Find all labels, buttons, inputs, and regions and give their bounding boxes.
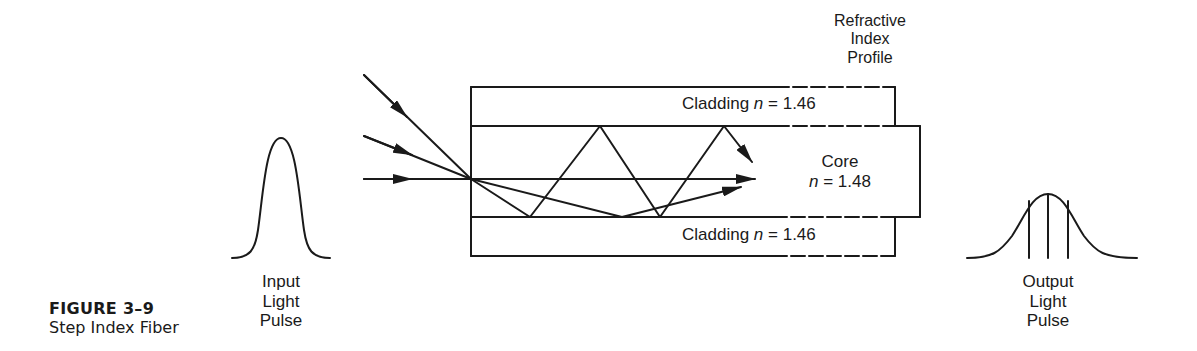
region-name: Cladding — [682, 225, 749, 244]
core-label: Core n = 1.48 — [785, 152, 895, 191]
input-pulse-label: Input Light Pulse — [241, 272, 321, 331]
cladding-top-label: Cladding n = 1.46 — [682, 94, 816, 114]
label-line: Light — [1003, 292, 1093, 312]
refractive-index-profile-label: Refractive Index Profile — [805, 12, 935, 67]
label-line: Output — [1003, 272, 1093, 292]
input-pulse-curve — [232, 138, 330, 258]
label-line: Pulse — [1003, 311, 1093, 331]
cladding-bottom-label: Cladding n = 1.46 — [682, 225, 816, 245]
figure-title: Step Index Fiber — [49, 318, 179, 337]
label-line: Profile — [805, 49, 935, 67]
output-pulse-curve — [967, 194, 1137, 258]
output-pulse-label: Output Light Pulse — [1003, 272, 1093, 331]
index-value: = 1.48 — [819, 172, 871, 191]
core-ray-steep — [471, 126, 752, 217]
n-symbol: n — [809, 172, 818, 191]
figure-caption: FIGURE 3–9 Step Index Fiber — [49, 299, 179, 337]
label-line: Input — [241, 272, 321, 292]
index-value: = 1.46 — [763, 225, 815, 244]
n-symbol: n — [754, 225, 763, 244]
label-line: Pulse — [241, 311, 321, 331]
label-line: Index — [805, 30, 935, 48]
region-name: Core — [785, 152, 895, 172]
region-name: Cladding — [682, 94, 749, 113]
n-symbol: n — [754, 94, 763, 113]
label-line: Light — [241, 292, 321, 312]
core-index: n = 1.48 — [785, 172, 895, 192]
index-value: = 1.46 — [763, 94, 815, 113]
label-line: Refractive — [805, 12, 935, 30]
figure-number: FIGURE 3–9 — [49, 299, 179, 318]
core-ray-shallow — [471, 179, 741, 217]
